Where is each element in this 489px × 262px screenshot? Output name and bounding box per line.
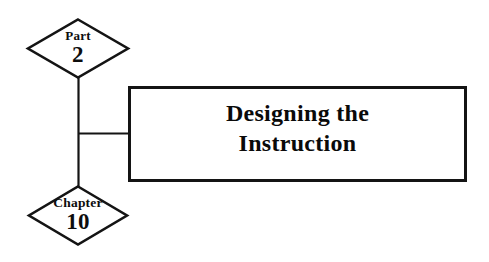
part-node-label: Part 2: [28, 28, 128, 66]
part-number-label: 2: [28, 43, 128, 66]
title-line-2: Instruction: [131, 128, 464, 158]
chapter-node-label: Chapter 10: [23, 195, 133, 233]
part-kind-label: Part: [28, 28, 128, 43]
chapter-number-label: 10: [23, 210, 133, 233]
title-line-1: Designing the: [131, 98, 464, 128]
chapter-kind-label: Chapter: [23, 195, 133, 210]
title-box-text: Designing the Instruction: [131, 98, 464, 158]
diagram-canvas: Part 2 Chapter 10 Designing the Instruct…: [0, 0, 489, 262]
